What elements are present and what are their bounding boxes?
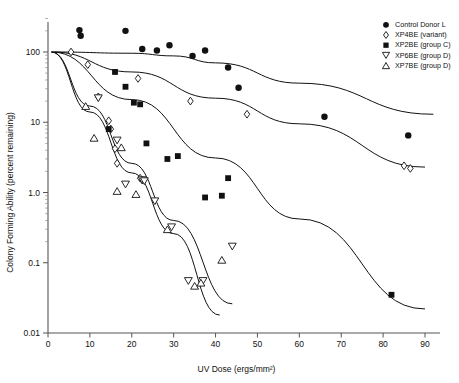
data-point xyxy=(189,53,195,59)
legend-item[interactable]: XP6BE (group D) xyxy=(382,51,450,60)
data-point xyxy=(117,144,125,151)
legend-group: Control Donor LXP4BE (variant)XP2BE (gro… xyxy=(382,20,450,70)
fit-lines-group xyxy=(51,52,433,315)
data-points-group xyxy=(68,27,413,298)
legend-marker-filled-square xyxy=(383,43,388,48)
legend-item[interactable]: XP7BE (group D) xyxy=(382,61,450,70)
legend-label: Control Donor L xyxy=(395,20,446,29)
y-tick-label: 0.01 xyxy=(23,328,40,338)
data-point xyxy=(244,110,250,118)
series-0 xyxy=(76,27,411,139)
data-point xyxy=(106,126,112,132)
data-point xyxy=(166,42,172,48)
xp4be-fit xyxy=(52,52,425,167)
data-point xyxy=(85,61,91,69)
data-point xyxy=(188,97,194,105)
y-tick-label: 100 xyxy=(26,47,40,57)
data-point xyxy=(219,193,225,199)
y-tick-label: 10 xyxy=(31,117,41,127)
data-point xyxy=(135,75,141,83)
data-point xyxy=(112,69,118,75)
data-point xyxy=(94,95,102,102)
x-tick-label: 20 xyxy=(127,339,137,349)
legend-item[interactable]: XP4BE (variant) xyxy=(384,30,447,39)
legend-marker-open-diamond xyxy=(384,32,389,39)
survival-curve-chart: 0102030405060708090100101.00.10.01UV Dos… xyxy=(0,0,459,383)
y-tick-label: 1.0 xyxy=(28,188,40,198)
data-point xyxy=(131,100,137,106)
data-point xyxy=(132,191,140,198)
x-tick-label: 70 xyxy=(336,339,346,349)
x-tick-label: 60 xyxy=(295,339,305,349)
legend-label: XP4BE (variant) xyxy=(395,30,447,39)
data-point xyxy=(113,188,121,195)
y-tick-label: 0.1 xyxy=(28,258,40,268)
figure-container: 0102030405060708090100101.00.10.01UV Dos… xyxy=(0,0,459,383)
x-tick-label: 90 xyxy=(420,339,430,349)
axis-labels-group: 0102030405060708090100101.00.10.01UV Dos… xyxy=(5,47,430,374)
data-point xyxy=(228,243,236,250)
legend-label: XP7BE (group D) xyxy=(395,61,451,70)
x-tick-label: 10 xyxy=(85,339,95,349)
data-point xyxy=(139,46,145,52)
data-point xyxy=(218,256,226,263)
data-point xyxy=(77,33,83,39)
legend-item[interactable]: Control Donor L xyxy=(383,20,446,29)
legend-label: XP2BE (group C) xyxy=(395,40,451,49)
legend-marker-open-up-triangle xyxy=(382,63,389,69)
data-point xyxy=(321,113,327,119)
data-point xyxy=(112,145,118,153)
series-1 xyxy=(68,48,413,184)
legend-label: XP6BE (group D) xyxy=(395,51,451,60)
data-point xyxy=(175,153,181,159)
data-point xyxy=(154,47,160,53)
x-tick-label: 80 xyxy=(378,339,388,349)
data-point xyxy=(202,195,208,201)
data-point xyxy=(114,160,120,168)
data-point xyxy=(401,162,407,170)
y-axis-title: Colony Forming Ability (percent remainin… xyxy=(5,112,15,273)
x-tick-label: 0 xyxy=(46,339,51,349)
data-point xyxy=(144,140,150,146)
data-point xyxy=(389,292,395,298)
data-point xyxy=(164,156,170,162)
x-tick-label: 40 xyxy=(211,339,221,349)
data-point xyxy=(123,84,129,90)
legend-item[interactable]: XP2BE (group C) xyxy=(383,40,450,49)
xp7be-fit xyxy=(51,52,219,315)
data-point xyxy=(225,175,231,181)
data-point xyxy=(184,278,192,285)
control-fit xyxy=(54,52,433,114)
data-point xyxy=(235,85,241,91)
data-point xyxy=(122,181,130,188)
x-tick-label: 30 xyxy=(169,339,179,349)
data-point xyxy=(225,64,231,70)
data-point xyxy=(90,134,98,141)
x-tick-label: 50 xyxy=(253,339,263,349)
data-point xyxy=(405,132,411,138)
x-axis-title: UV Dose (ergs/mm²) xyxy=(198,364,276,374)
data-point xyxy=(202,47,208,53)
data-point xyxy=(76,27,82,33)
data-point xyxy=(122,28,128,34)
legend-marker-filled-circle xyxy=(383,22,389,28)
legend-marker-open-down-triangle xyxy=(382,52,389,58)
data-point xyxy=(137,101,143,107)
